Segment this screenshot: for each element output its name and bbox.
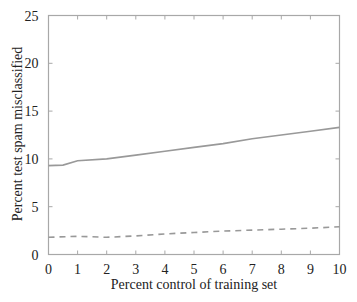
x-tick-label: 7 — [249, 262, 256, 277]
x-axis-label: Percent control of training set — [111, 277, 278, 292]
x-tick-label: 6 — [220, 262, 227, 277]
y-axis-label: Percent test spam misclassified — [10, 47, 25, 222]
series-lines — [49, 127, 340, 237]
x-tick-label: 10 — [333, 262, 347, 277]
plot-border — [49, 16, 340, 255]
x-tick-label: 0 — [45, 262, 52, 277]
axis-ticks — [49, 16, 340, 255]
y-tick-label: 0 — [32, 248, 39, 263]
x-tick-label: 1 — [74, 262, 81, 277]
x-tick-label: 3 — [132, 262, 139, 277]
y-tick-label: 15 — [25, 104, 39, 119]
y-tick-label: 25 — [25, 9, 39, 24]
series-solid-line — [49, 127, 340, 165]
x-tick-label: 2 — [103, 262, 110, 277]
y-tick-label: 5 — [32, 200, 39, 215]
line-chart: 0123456789100510152025 Percent control o… — [0, 0, 357, 302]
x-tick-label: 4 — [161, 262, 168, 277]
y-tick-label: 10 — [25, 152, 39, 167]
series-dashed-line — [49, 227, 340, 238]
y-tick-label: 20 — [25, 56, 39, 71]
x-tick-label: 5 — [191, 262, 198, 277]
plot-frame — [49, 16, 340, 255]
x-tick-label: 9 — [307, 262, 314, 277]
x-tick-label: 8 — [278, 262, 285, 277]
